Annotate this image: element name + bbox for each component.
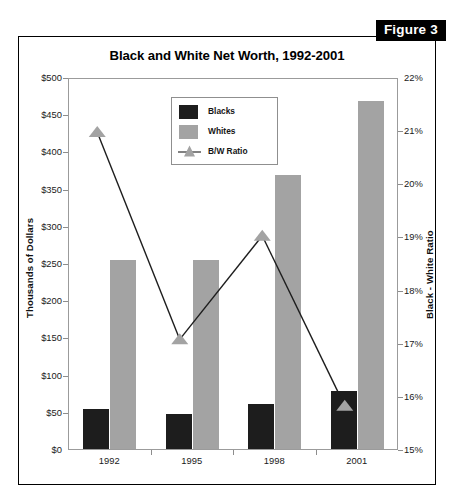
y-tick-label-left: $300 (22, 222, 62, 231)
y-tick-label-right: 15% (404, 445, 444, 454)
y-tick-label-left: $200 (22, 296, 62, 305)
ratio-marker-2001 (336, 400, 353, 411)
y-tick-label-right: 18% (404, 286, 444, 295)
chart-title: Black and White Net Worth, 1992-2001 (18, 48, 436, 63)
ratio-line-segment (97, 132, 180, 339)
legend-item-blacks: Blacks (179, 103, 273, 121)
figure-container: Figure 3 Black and White Net Worth, 1992… (0, 0, 455, 500)
ratio-marker-1995 (171, 333, 188, 344)
y-tick-label-left: $400 (22, 147, 62, 156)
x-tick-label: 1995 (162, 456, 222, 465)
legend-label-bw-ratio: B/W Ratio (208, 146, 248, 156)
y-tick-label-left: $350 (22, 185, 62, 194)
y-tick-label-right: 19% (404, 232, 444, 241)
ratio-marker-1998 (254, 230, 271, 241)
figure-number-badge: Figure 3 (376, 20, 446, 41)
y-tick-label-left: $150 (22, 333, 62, 342)
chart-legend: Blacks Whites B/W Ratio (171, 97, 278, 165)
y-tick-label-left: $0 (22, 445, 62, 454)
legend-swatch-whites (179, 125, 198, 139)
y-tick-label-right: 22% (404, 73, 444, 82)
legend-swatch-blacks (179, 105, 198, 119)
x-tick-label: 2001 (327, 456, 387, 465)
legend-label-whites: Whites (208, 126, 235, 136)
ratio-marker-1992 (89, 126, 106, 137)
legend-item-bw-ratio: B/W Ratio (179, 143, 273, 161)
y-tick-label-right: 17% (404, 339, 444, 348)
y-tick-label-left: $450 (22, 110, 62, 119)
y-tick-label-left: $500 (22, 73, 62, 82)
y-tick-label-right: 21% (404, 126, 444, 135)
y-tick-label-right: 16% (404, 392, 444, 401)
y-tick-label-left: $100 (22, 371, 62, 380)
legend-label-blacks: Blacks (208, 106, 235, 116)
y-tick-label-left: $50 (22, 408, 62, 417)
legend-item-whites: Whites (179, 123, 273, 141)
x-tick-label: 1992 (79, 456, 139, 465)
legend-marker-triangle-icon (178, 143, 201, 160)
y-tick-label-left: $250 (22, 259, 62, 268)
ratio-line-segment (180, 236, 263, 340)
x-tick-label: 1998 (244, 456, 304, 465)
y-tick-label-right: 20% (404, 179, 444, 188)
ratio-line-segment (262, 236, 345, 406)
